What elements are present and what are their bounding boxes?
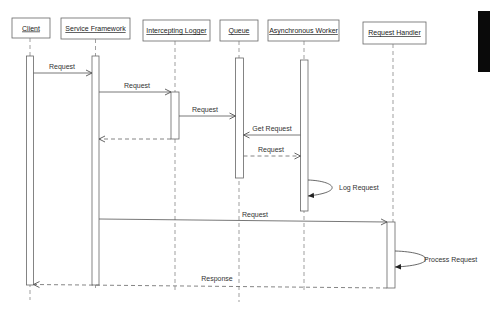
message-label: Get Request	[252, 125, 291, 133]
participant-label-queue: Queue	[228, 27, 249, 35]
activation-queue	[236, 58, 244, 178]
message-label: Request	[242, 211, 268, 219]
participant-label-intercepting-logger: Intercepting Logger	[146, 27, 207, 35]
message-label: Request	[124, 82, 150, 90]
message-label: Request	[192, 106, 218, 114]
participant-request-handler: Request Handler	[363, 22, 426, 44]
message-worker-get-request: Get Request	[244, 125, 301, 135]
self-message-log-request: Log Request	[308, 180, 379, 196]
participant-intercepting-logger: Intercepting Logger	[143, 20, 210, 41]
message-logger-to-queue: Request	[179, 106, 236, 116]
message-label: Request	[49, 63, 75, 71]
participant-async-worker: Asynchronous Worker	[268, 20, 339, 41]
message-label: Response	[201, 275, 233, 283]
activation-client	[27, 56, 34, 285]
activation-intercepting-logger	[171, 92, 179, 139]
participant-label-async-worker: Asynchronous Worker	[269, 27, 338, 35]
message-response-to-client: Response	[34, 275, 388, 288]
participant-queue: Queue	[220, 20, 258, 41]
message-label: Request	[258, 146, 284, 154]
edge-bar	[478, 11, 490, 72]
message-queue-to-worker: Request	[244, 146, 301, 156]
message-label: Process Request	[424, 256, 477, 264]
participant-service-framework: Service Framework	[61, 18, 130, 39]
activation-service-framework	[92, 56, 99, 285]
message-framework-to-logger: Request	[99, 82, 171, 92]
activation-async-worker	[301, 60, 309, 211]
message-framework-to-handler: Request	[99, 211, 387, 222]
participant-label-service-framework: Service Framework	[65, 25, 126, 32]
message-label: Log Request	[339, 184, 379, 192]
participant-label-request-handler: Request Handler	[368, 29, 421, 37]
message-client-to-framework: Request	[34, 63, 93, 73]
self-message-process-request: Process Request	[395, 251, 477, 267]
participant-client: Client	[12, 18, 50, 38]
activation-request-handler	[387, 222, 395, 288]
participant-label-client: Client	[22, 25, 40, 32]
